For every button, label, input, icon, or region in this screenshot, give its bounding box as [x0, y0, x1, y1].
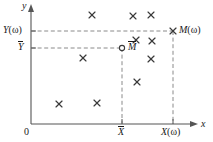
y-tick-label-y-bar: Y [18, 42, 24, 52]
point-marker-m-bar [119, 45, 124, 50]
point-label-m-omega: M(ω) [179, 25, 201, 35]
scatter-point [94, 100, 100, 106]
x-tick-label-x-omega: X(ω) [161, 127, 180, 137]
scatter-markers [56, 12, 155, 107]
scatter-point [130, 13, 136, 19]
x-tick-label-x-bar: X [118, 127, 124, 137]
m-omega-sub: (ω) [187, 24, 200, 35]
x-omega-sub: (ω) [167, 126, 180, 137]
scatter-point [148, 12, 154, 18]
y-axis [28, 4, 34, 124]
scatter-point [149, 38, 155, 44]
scatter-point [56, 101, 62, 107]
scatter-point [148, 56, 154, 62]
point-label-m-bar: M [128, 42, 136, 52]
x-bar-base: X [118, 127, 124, 137]
y-tick-label-y-omega: Y(ω) [3, 25, 22, 35]
y-omega-sub: (ω) [9, 24, 22, 35]
origin-label: 0 [24, 127, 29, 137]
diagram-canvas [0, 0, 213, 142]
y-axis-label: y [22, 1, 26, 11]
scatter-point [80, 55, 86, 61]
scatter-diagram: y x 0 Y(ω) Y X X(ω) M M(ω) [0, 0, 213, 142]
m-bar-base: M [128, 42, 136, 52]
y-bar-base: Y [18, 42, 24, 52]
x-axis-label: x [201, 119, 205, 129]
scatter-point [134, 79, 140, 85]
scatter-point [89, 12, 95, 18]
